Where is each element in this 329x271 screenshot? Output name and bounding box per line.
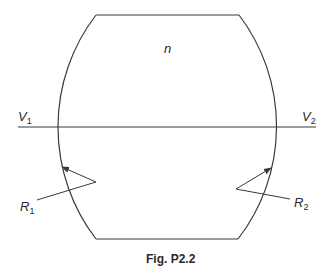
v1-label: V1 xyxy=(18,110,32,126)
r1-subscript: 1 xyxy=(29,206,34,216)
r1-symbol: R xyxy=(20,199,29,214)
figure-caption: Fig. P2.2 xyxy=(146,253,195,265)
medium-index-label: n xyxy=(164,42,171,55)
medium-index-text: n xyxy=(164,41,171,56)
v2-label: V2 xyxy=(302,110,316,126)
r2-leader xyxy=(236,168,290,199)
r2-subscript: 2 xyxy=(303,202,308,212)
r2-symbol: R xyxy=(294,195,303,210)
v2-symbol: V xyxy=(302,109,311,124)
v1-symbol: V xyxy=(18,109,27,124)
r2-label: R2 xyxy=(294,196,308,212)
v2-subscript: 2 xyxy=(311,116,316,126)
r1-label: R1 xyxy=(20,200,34,216)
v1-subscript: 1 xyxy=(27,116,32,126)
